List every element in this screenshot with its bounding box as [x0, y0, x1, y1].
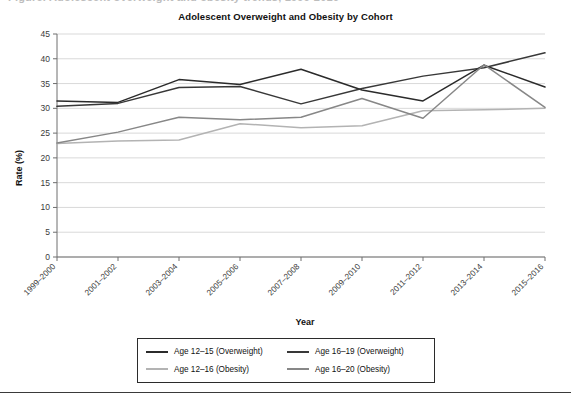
x-tick-label: 2003–2004 [144, 262, 180, 298]
legend-label-age-16-20-obesity: Age 16–20 (Obesity) [315, 365, 390, 374]
x-tick-label: 2011–2012 [389, 262, 424, 297]
gridlines [57, 34, 545, 257]
legend-swatch-age-12-16-obesity [146, 368, 168, 370]
x-tick-label: 2001–2002 [83, 262, 119, 298]
y-tick-label: 35 [41, 79, 51, 89]
x-tick-label: 2005–2006 [205, 262, 241, 298]
legend-swatch-age-16-20-obesity [287, 368, 309, 370]
chart-legend: Age 12–15 (Overweight) Age 16–19 (Overwe… [137, 338, 435, 383]
y-tick-label: 10 [41, 202, 51, 212]
legend-swatch-age-12-15-overweight [146, 351, 168, 353]
legend-label-age-12-16-obesity: Age 12–16 (Obesity) [174, 365, 249, 374]
y-tick-label: 15 [41, 178, 51, 188]
data-series [57, 53, 545, 144]
legend-label-age-12-15-overweight: Age 12–15 (Overweight) [174, 347, 263, 356]
x-tick-label: 2009–2010 [327, 262, 363, 298]
y-axis-title: Rate (%) [14, 150, 24, 186]
y-tick-label: 5 [45, 227, 50, 237]
x-axis-title: Year [295, 317, 315, 327]
series-line-2 [57, 108, 545, 143]
x-tick-label: 2015–2016 [510, 262, 546, 298]
footer-spacer [0, 396, 571, 404]
x-tick-label: 1999–2000 [22, 262, 58, 298]
y-tick-label: 45 [41, 29, 51, 39]
legend-item-age-16-19-overweight: Age 16–19 (Overweight) [287, 343, 428, 361]
y-tick-label: 30 [41, 103, 51, 113]
legend-swatch-age-16-19-overweight [287, 351, 309, 353]
legend-label-age-16-19-overweight: Age 16–19 (Overweight) [315, 347, 404, 356]
legend-item-age-12-16-obesity: Age 12–16 (Obesity) [146, 361, 287, 379]
x-tick-label: 2013–2014 [449, 262, 485, 298]
legend-item-age-12-15-overweight: Age 12–15 (Overweight) [146, 343, 287, 361]
x-tick-label: 2007–2008 [266, 262, 302, 298]
axes [53, 34, 545, 261]
y-tick-labels: 051015202530354045 [41, 29, 51, 262]
x-tick-labels: 1999–20002001–20022003–20042005–20062007… [22, 262, 546, 298]
y-tick-label: 20 [41, 153, 51, 163]
y-tick-label: 25 [41, 128, 51, 138]
y-tick-label: 0 [45, 252, 50, 262]
y-tick-label: 40 [41, 54, 51, 64]
figure-page: Figure. Adolescent overweight and obesit… [0, 0, 571, 404]
footer-divider [0, 392, 571, 393]
legend-item-age-16-20-obesity: Age 16–20 (Obesity) [287, 361, 428, 379]
